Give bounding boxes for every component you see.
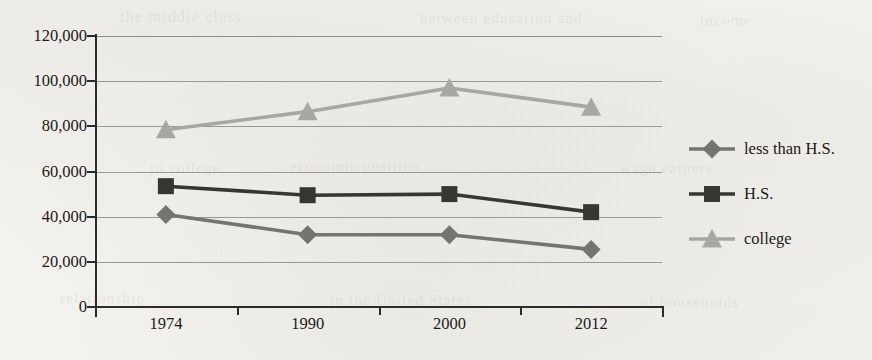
series-less-than-h-s [156,205,600,259]
line-chart: 120,000100,00080,00060,00040,00020,0000 … [0,0,872,360]
series-line [166,88,591,130]
data-point-marker [300,187,316,203]
legend-label: less than H.S. [744,139,835,159]
legend-diamond-marker-icon [688,139,736,159]
series-h-s [158,178,599,220]
legend-item-college[interactable]: college [688,216,868,261]
chart-legend: less than H.S.H.S.college [688,126,868,261]
data-point-marker [156,205,175,224]
legend-square-marker-icon [688,184,736,204]
legend-triangle-marker-icon [688,229,736,249]
legend-item-less-than-h-s[interactable]: less than H.S. [688,126,868,171]
data-point-marker [298,225,317,244]
legend-label: college [744,229,792,249]
legend-label: H.S. [744,184,773,204]
data-point-marker [582,240,601,259]
data-point-marker [441,186,457,202]
series-college [156,78,601,138]
series-line [166,186,591,212]
data-point-marker [158,178,174,194]
data-point-marker [440,225,459,244]
series-line [166,214,591,249]
data-point-marker [583,204,599,220]
legend-item-h-s[interactable]: H.S. [688,171,868,216]
